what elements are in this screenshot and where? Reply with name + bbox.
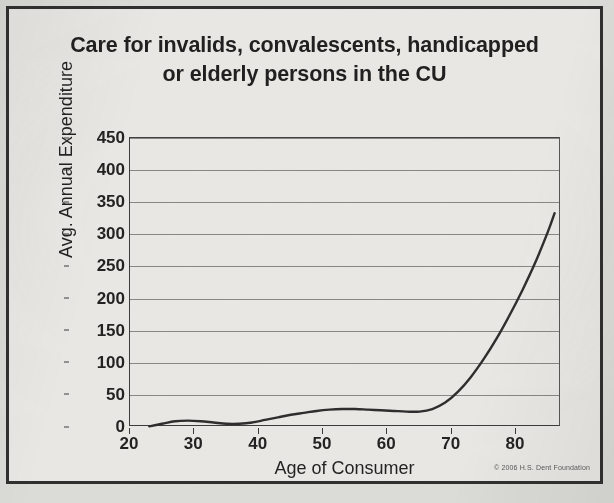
y-axis-tick-mark (64, 362, 69, 363)
x-axis-tick-labels: 20304050607080 (9, 434, 600, 458)
y-axis-tick-label: 350 (69, 193, 125, 210)
chart-frame-border: Care for invalids, convalescents, handic… (6, 6, 603, 484)
x-axis-tick-mark (386, 428, 387, 434)
chart-title-line-2: or elderly persons in the CU (9, 60, 600, 89)
y-axis-tick-label: 250 (69, 257, 125, 274)
plot-area (129, 137, 560, 426)
x-axis-tick-label: 80 (492, 434, 538, 454)
copyright-notice: © 2006 H.S. Dent Foundation (494, 464, 590, 471)
x-axis-tick-label: 50 (299, 434, 345, 454)
y-axis-tick-mark (64, 330, 69, 331)
y-axis-tick-mark (64, 426, 69, 427)
chart-canvas: Care for invalids, convalescents, handic… (9, 9, 600, 481)
data-series-line (130, 138, 561, 427)
y-axis-tick-labels: 050100150200250300350400450 (69, 137, 125, 426)
y-axis-tick-mark (64, 137, 69, 138)
y-axis-tick-label: 200 (69, 289, 125, 306)
y-axis-tick-mark (64, 169, 69, 170)
y-axis-tick-mark (64, 233, 69, 234)
x-axis-tick-label: 40 (235, 434, 281, 454)
x-axis-tick-label: 30 (170, 434, 216, 454)
y-axis-tick-label: 150 (69, 321, 125, 338)
y-axis-tick-label: 100 (69, 353, 125, 370)
y-axis-tick-mark (64, 265, 69, 266)
x-axis-tick-label: 20 (106, 434, 152, 454)
y-axis-tick-label: 50 (69, 385, 125, 402)
x-axis-tick-mark (322, 428, 323, 434)
x-axis-tick-mark (193, 428, 194, 434)
y-axis-tick-label: 450 (69, 129, 125, 146)
x-axis-tick-label: 70 (428, 434, 474, 454)
y-axis-tick-label: 0 (69, 418, 125, 435)
chart-title: Care for invalids, convalescents, handic… (9, 31, 600, 89)
y-axis-tick-label: 400 (69, 161, 125, 178)
x-axis-tick-mark (258, 428, 259, 434)
x-axis-tick-label: 60 (363, 434, 409, 454)
y-axis-tick-label: 300 (69, 225, 125, 242)
x-axis-tick-mark (129, 428, 130, 434)
x-axis-tick-mark (451, 428, 452, 434)
y-axis-tick-mark (64, 394, 69, 395)
x-axis-tick-mark (515, 428, 516, 434)
chart-title-line-1: Care for invalids, convalescents, handic… (9, 31, 600, 60)
scanned-chart-page: Care for invalids, convalescents, handic… (0, 0, 614, 503)
y-axis-tick-mark (64, 201, 69, 202)
y-axis-tick-mark (64, 298, 69, 299)
